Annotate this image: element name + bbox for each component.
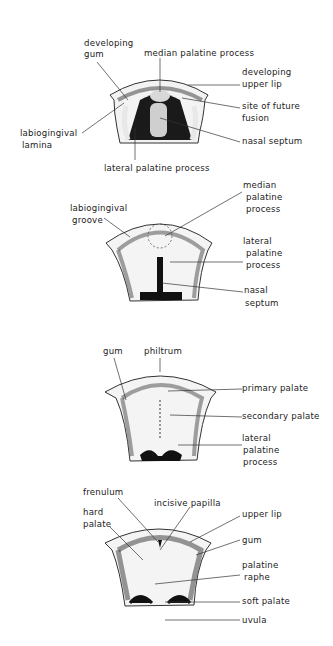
label-developing-gum-1: developing (84, 38, 134, 49)
label-incisive-papilla: incisive papilla (154, 498, 221, 509)
label-developing-gum-2: gum (84, 49, 104, 60)
label-palatine-raphe-1: palatine (242, 560, 278, 571)
stage1-drawing (110, 80, 208, 143)
label-gum-stage3: gum (103, 346, 123, 357)
label-hard-palate-1: hard (83, 507, 103, 518)
label-developing-upper-lip-1: developing (242, 67, 292, 78)
label-developing-upper-lip-2: upper lip (242, 79, 282, 90)
label-nasal-2: septum (245, 298, 279, 309)
label-median-palatine-3: process (246, 204, 280, 215)
label-hard-palate-2: palate (83, 519, 111, 530)
label-lateral-palatine-s3-3: process (243, 457, 277, 468)
label-lateral-palatine-s3-2: palatine (243, 445, 279, 456)
label-nasal-1: nasal (244, 285, 268, 296)
stage4-drawing (105, 529, 211, 606)
label-site-future-fusion-2: fusion (242, 113, 269, 124)
label-frenulum: frenulum (83, 487, 123, 498)
label-labiogingival-lamina-1: labiogingival (20, 128, 77, 139)
stage3-drawing (105, 376, 216, 461)
label-median-palatine-2: palatine (246, 192, 282, 203)
palate-diagram (0, 0, 333, 646)
stage2-drawing (106, 224, 212, 301)
label-uvula: uvula (242, 615, 267, 626)
label-lateral-palatine-3: process (246, 260, 280, 271)
label-median-palatine-process: median palatine process (144, 48, 254, 59)
label-philtrum: philtrum (144, 346, 182, 357)
label-median-palatine-1: median (243, 180, 276, 191)
label-soft-palate: soft palate (242, 596, 290, 607)
label-labiogingival-groove-2: groove (72, 215, 103, 226)
label-lateral-palatine-1: lateral (243, 236, 272, 247)
label-upper-lip: upper lip (242, 509, 282, 520)
label-site-future-fusion-1: site of future (242, 101, 300, 112)
label-primary-palate: primary palate (242, 383, 308, 394)
label-labiogingival-lamina-2: lamina (22, 140, 52, 151)
label-palatine-raphe-2: raphe (244, 572, 270, 583)
label-nasal-septum: nasal septum (242, 136, 302, 147)
label-lateral-palatine-process: lateral palatine process (104, 163, 210, 174)
label-labiogingival-groove-1: labiogingival (70, 203, 127, 214)
label-lateral-palatine-s3-1: lateral (242, 433, 271, 444)
label-lateral-palatine-2: palatine (246, 248, 282, 259)
label-gum-stage4: gum (242, 535, 262, 546)
label-secondary-palate: secondary palate (242, 411, 320, 422)
